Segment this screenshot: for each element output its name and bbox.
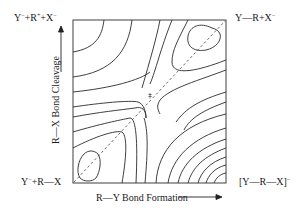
contour-line	[156, 114, 226, 183]
contour-line	[168, 128, 226, 183]
reaction-path-dashed-line	[74, 21, 225, 182]
transition-state-marker: ‡	[148, 91, 152, 100]
product-well-contour	[188, 25, 221, 50]
contour-line	[158, 70, 226, 114]
contour-diagram: ‡	[0, 0, 304, 216]
contour-line	[188, 148, 226, 183]
right-arrow-icon	[216, 195, 222, 200]
contour-line	[150, 20, 172, 84]
contour-line	[176, 92, 226, 122]
contour-line	[73, 108, 135, 117]
contour-line	[214, 173, 226, 183]
contour-line	[144, 118, 147, 183]
contour-line	[73, 20, 104, 52]
up-arrow-icon	[59, 26, 64, 32]
contour-line	[172, 20, 226, 71]
contour-line	[142, 20, 160, 88]
